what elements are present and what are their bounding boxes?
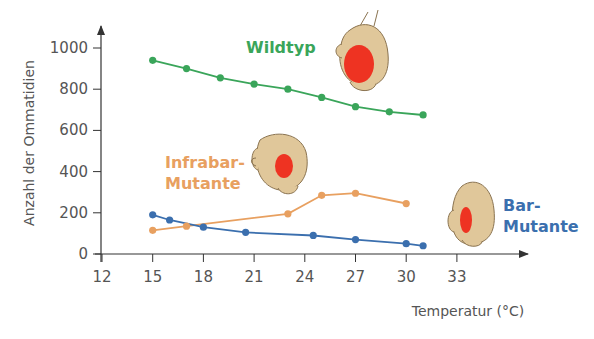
- x-tick-label: 12: [92, 268, 111, 286]
- data-point-wildtyp: [420, 111, 427, 118]
- y-tick-label: 800: [59, 80, 88, 98]
- wildtyp-fly-head-illustration: [336, 10, 388, 91]
- data-point-wildtyp: [352, 103, 359, 110]
- head-shape: [452, 182, 494, 244]
- series-label-bar: Bar- Mutante: [503, 196, 579, 236]
- data-point-wildtyp: [217, 74, 224, 81]
- x-tick-label: 18: [194, 268, 213, 286]
- chart: 1215182124273033 02004006008001000 Tempe…: [0, 0, 594, 339]
- eye-bar: [460, 207, 472, 233]
- data-point-bar-mutante: [200, 224, 207, 231]
- series-label-infrabar: Infrabar- Mutante: [165, 153, 245, 193]
- data-point-infrabar-mutante: [284, 210, 291, 217]
- antenna-icon: [360, 10, 378, 26]
- series-line-bar-mutante: [153, 215, 423, 246]
- data-point-wildtyp: [149, 57, 156, 64]
- data-point-wildtyp: [386, 108, 393, 115]
- y-ticks: 02004006008001000: [50, 39, 101, 263]
- series-label-infrabar-line-1: Infrabar-: [165, 153, 245, 172]
- snout-shape: [252, 148, 259, 170]
- data-point-infrabar-mutante: [352, 190, 359, 197]
- infrabar-fly-head-illustration: [252, 134, 308, 194]
- x-axis-title: Temperatur (°C): [411, 303, 525, 319]
- data-point-infrabar-mutante: [318, 192, 325, 199]
- data-point-bar-mutante: [420, 242, 427, 249]
- x-tick-label: 15: [143, 268, 162, 286]
- x-tick-label: 21: [245, 268, 264, 286]
- eye-medium: [275, 154, 293, 178]
- x-ticks: 1215182124273033: [92, 254, 466, 286]
- series-label-bar-line-2: Mutante: [503, 217, 579, 236]
- data-point-infrabar-mutante: [149, 227, 156, 234]
- y-tick-label: 200: [59, 204, 88, 222]
- series-label-infrabar-line-2: Mutante: [165, 174, 241, 193]
- data-point-bar-mutante: [149, 211, 156, 218]
- data-point-wildtyp: [284, 86, 291, 93]
- x-tick-label: 24: [295, 268, 314, 286]
- series-label-wildtyp-line-1: Wildtyp: [246, 38, 316, 57]
- x-tick-label: 33: [447, 268, 466, 286]
- y-tick-label: 600: [59, 121, 88, 139]
- series-label-bar-line-1: Bar-: [503, 196, 541, 215]
- series-label-wildtyp: Wildtyp: [246, 38, 316, 57]
- eye-large: [344, 45, 374, 83]
- x-tick-label: 27: [346, 268, 365, 286]
- data-point-wildtyp: [318, 94, 325, 101]
- data-point-bar-mutante: [310, 232, 317, 239]
- y-tick-label: 400: [59, 163, 88, 181]
- data-point-wildtyp: [183, 65, 190, 72]
- data-point-infrabar-mutante: [183, 223, 190, 230]
- bar-fly-head-illustration: [448, 182, 494, 246]
- snout-shape: [448, 210, 454, 232]
- x-tick-label: 30: [397, 268, 416, 286]
- y-tick-label: 0: [78, 245, 88, 263]
- data-point-bar-mutante: [403, 240, 410, 247]
- data-point-bar-mutante: [166, 216, 173, 223]
- data-point-infrabar-mutante: [403, 200, 410, 207]
- snout-shape: [336, 44, 342, 58]
- y-tick-label: 1000: [50, 39, 88, 57]
- data-point-bar-mutante: [242, 229, 249, 236]
- data-point-wildtyp: [251, 80, 258, 87]
- y-axis-title: Anzahl der Ommatidien: [21, 60, 37, 226]
- data-point-bar-mutante: [352, 236, 359, 243]
